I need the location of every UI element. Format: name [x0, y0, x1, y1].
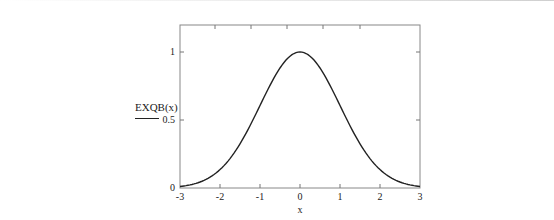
- y-tick-1: 1: [170, 46, 175, 57]
- plot-frame: [180, 25, 420, 188]
- y-ticks: [180, 52, 420, 120]
- x-tick: 3: [418, 191, 423, 202]
- x-tick: -1: [256, 191, 264, 202]
- y-tick-0: 0: [170, 182, 175, 193]
- x-tick: 1: [338, 191, 343, 202]
- x-tick: 2: [378, 191, 383, 202]
- y-axis-label: EXQB(x): [135, 101, 178, 113]
- x-tick: -2: [216, 191, 224, 202]
- x-tick: 0: [298, 191, 303, 202]
- x-tick: -3: [176, 191, 184, 202]
- x-axis-label: x: [298, 204, 303, 215]
- x-ticks: [215, 25, 380, 188]
- y-axis-label-underline: [135, 118, 159, 119]
- y-tick-0-5: 0.5: [163, 114, 176, 125]
- plot: 0 0.5 1 -3 -2 -1 0 1 2 3 x: [0, 0, 554, 220]
- curve-exqb: [180, 52, 420, 186]
